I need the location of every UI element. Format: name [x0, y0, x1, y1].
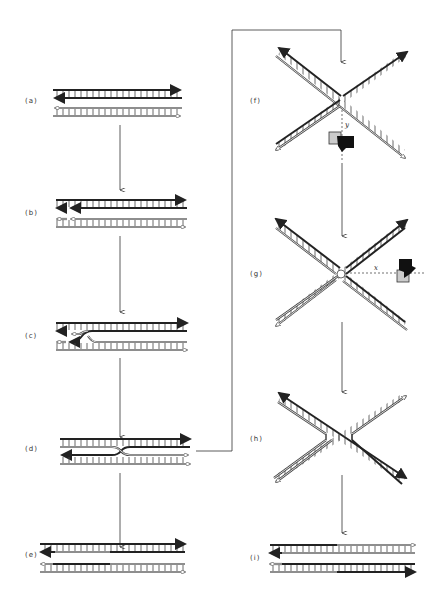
panel-i: (i) — [250, 545, 415, 572]
cut-axis-label-x: x — [374, 264, 378, 272]
panel-f: (f) y — [250, 48, 407, 160]
panel-b: (b) — [25, 200, 187, 227]
cut-axis-label-y: y — [344, 121, 350, 129]
panel-label-g: (g) — [250, 270, 263, 278]
panel-a: (a) — [25, 90, 182, 116]
panel-e: (e) — [25, 544, 185, 572]
panel-g: (g) x — [250, 219, 425, 330]
panel-label-i: (i) — [250, 554, 260, 562]
panel-label-d: (d) — [25, 445, 38, 453]
panel-label-f: (f) — [250, 97, 261, 105]
holliday-junction-diagram: (a) (b) (c) — [0, 0, 447, 610]
panel-d: (d) — [25, 439, 190, 464]
panel-h: (h) — [250, 393, 406, 484]
panel-label-a: (a) — [25, 97, 38, 105]
panel-label-e: (e) — [25, 551, 38, 559]
connector-d-to-f — [196, 30, 341, 451]
panel-label-b: (b) — [25, 209, 38, 217]
panel-label-h: (h) — [250, 435, 263, 443]
panel-label-c: (c) — [25, 332, 37, 340]
panel-c: (c) — [25, 323, 187, 350]
